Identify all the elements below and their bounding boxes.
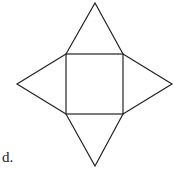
right-triangle — [123, 54, 172, 114]
top-triangle — [66, 3, 123, 54]
left-triangle — [17, 54, 66, 114]
bottom-triangle — [66, 114, 123, 166]
pyramid-net-diagram — [0, 0, 184, 172]
figure-label: d. — [2, 148, 13, 166]
base-square — [66, 54, 123, 114]
